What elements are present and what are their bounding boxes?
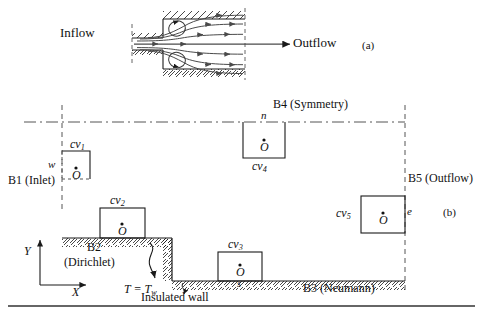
cv3-label-index: 3 — [239, 243, 243, 252]
cv2-label-text: cv — [110, 193, 121, 207]
figure-canvas: Inflow Outflow (a) (b) B1 (Inlet) B2 (Di… — [0, 0, 483, 314]
wall-temperature-leader — [149, 243, 155, 278]
cv4-label: cv4 — [252, 160, 267, 174]
insulated-wall-label: Insulated wall — [141, 291, 209, 303]
b4-symmetry-label: B4 (Symmetry) — [273, 98, 348, 110]
cv3-face-s-label: s — [237, 279, 241, 289]
panel-a-marker: (a) — [362, 40, 374, 51]
cv3-center-label: O — [236, 266, 245, 278]
x-axis-label: X — [72, 286, 79, 298]
cv3-label-text: cv — [228, 237, 239, 251]
b2-dirichlet-label-line1: B2 — [87, 241, 101, 253]
cv1-face-w-label: w — [48, 159, 55, 170]
b2-dirichlet-label-line2: (Dirichlet) — [64, 256, 115, 268]
cv2-center-label: O — [118, 225, 127, 237]
b3-neumann-label: B3 (Neumann) — [303, 282, 375, 294]
cv1-label-text: cv — [70, 137, 81, 151]
panel-a-duct — [132, 8, 290, 80]
cv2-label: cv2 — [110, 194, 125, 208]
b1-inlet-label: B1 (Inlet) — [8, 174, 55, 186]
cv1-label: cv1 — [70, 138, 85, 152]
cv5-label: cv5 — [336, 207, 351, 221]
cv5-center-label: O — [379, 214, 388, 226]
cv4-label-text: cv — [252, 159, 263, 173]
cv5-label-text: cv — [336, 206, 347, 220]
cv5-label-index: 5 — [347, 212, 351, 221]
cv3-label: cv3 — [228, 238, 243, 252]
outflow-label: Outflow — [293, 36, 336, 49]
b5-outflow-label: B5 (Outflow) — [408, 172, 473, 184]
cv4-center-label: O — [260, 141, 269, 153]
cv1-label-index: 1 — [81, 143, 85, 152]
panel-b-marker: (b) — [443, 207, 456, 218]
cv4-label-index: 4 — [263, 165, 267, 174]
cv5-face-e-label: e — [407, 206, 412, 217]
cv1-center-label: O — [72, 169, 81, 181]
y-axis-label: Y — [24, 245, 31, 257]
cv4-face-n-label: n — [261, 110, 267, 121]
inflow-label: Inflow — [60, 26, 95, 39]
cv2-label-index: 2 — [121, 199, 125, 208]
